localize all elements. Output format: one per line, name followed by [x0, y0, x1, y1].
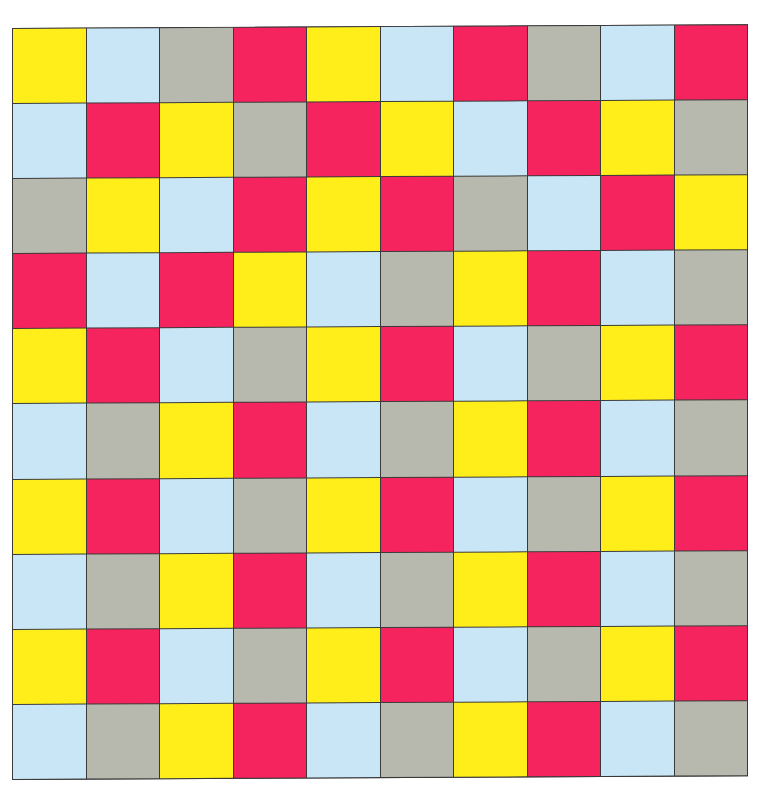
grid-cell-light-blue — [13, 404, 86, 478]
grid-cell-yellow — [307, 478, 380, 552]
grid-cell-yellow — [13, 629, 86, 703]
grid-cell-yellow — [454, 252, 527, 326]
grid-cell-red — [234, 403, 307, 477]
grid-cell-light-blue — [381, 27, 454, 101]
grid-cell-light-blue — [13, 104, 86, 178]
grid-cell-yellow — [601, 476, 674, 550]
grid-cell-light-blue — [160, 478, 233, 552]
grid-cell-yellow — [13, 29, 86, 103]
grid-cell-light-blue — [601, 551, 674, 625]
grid-cell-gray — [675, 401, 748, 475]
grid-cell-red — [528, 251, 601, 325]
grid-cell-red — [528, 101, 601, 175]
grid-cell-light-blue — [601, 26, 674, 100]
grid-cell-light-blue — [307, 553, 380, 627]
grid-cell-yellow — [675, 175, 748, 249]
grid-cell-light-blue — [13, 705, 86, 779]
grid-cell-red — [234, 27, 307, 101]
grid-cell-gray — [675, 100, 748, 174]
grid-cell-red — [87, 629, 160, 703]
grid-cell-gray — [381, 703, 454, 777]
grid-cell-gray — [381, 252, 454, 326]
grid-cell-light-blue — [160, 178, 233, 252]
grid-cell-yellow — [601, 626, 674, 700]
grid-cell-red — [675, 476, 748, 550]
grid-cell-red — [234, 178, 307, 252]
grid-cell-yellow — [454, 402, 527, 476]
grid-cell-yellow — [307, 27, 380, 101]
grid-cell-gray — [87, 554, 160, 628]
grid-cell-red — [381, 327, 454, 401]
grid-cell-red — [528, 401, 601, 475]
grid-cell-yellow — [307, 177, 380, 251]
grid-cell-red — [87, 329, 160, 403]
grid-cell-red — [675, 626, 748, 700]
grid-cell-light-blue — [454, 101, 527, 175]
canvas — [0, 0, 761, 790]
grid-cell-yellow — [87, 178, 160, 252]
grid-cell-yellow — [160, 554, 233, 628]
grid-cell-light-blue — [160, 629, 233, 703]
grid-cell-gray — [13, 179, 86, 253]
grid-cell-light-blue — [307, 703, 380, 777]
grid-cell-gray — [87, 404, 160, 478]
grid-cell-red — [160, 253, 233, 327]
grid-cell-light-blue — [87, 254, 160, 328]
grid-cell-yellow — [454, 552, 527, 626]
grid-cell-gray — [381, 402, 454, 476]
grid-cell-gray — [528, 26, 601, 100]
grid-cell-red — [528, 552, 601, 626]
grid-cell-yellow — [234, 253, 307, 327]
grid-cell-yellow — [601, 326, 674, 400]
grid-cell-yellow — [307, 628, 380, 702]
grid-cell-gray — [234, 103, 307, 177]
grid-cell-light-blue — [13, 554, 86, 628]
grid-cell-yellow — [13, 479, 86, 553]
grid-cell-yellow — [160, 704, 233, 778]
grid-cell-red — [381, 627, 454, 701]
grid-cell-yellow — [307, 327, 380, 401]
grid-cell-gray — [675, 701, 748, 775]
grid-cell-yellow — [160, 103, 233, 177]
color-grid — [12, 24, 748, 780]
grid-cell-yellow — [160, 403, 233, 477]
grid-cell-gray — [160, 28, 233, 102]
grid-cell-gray — [528, 326, 601, 400]
grid-cell-gray — [675, 250, 748, 324]
grid-cell-light-blue — [454, 627, 527, 701]
grid-cell-red — [381, 177, 454, 251]
grid-cell-gray — [381, 552, 454, 626]
grid-cell-gray — [528, 627, 601, 701]
grid-cell-light-blue — [601, 251, 674, 325]
grid-cell-yellow — [381, 102, 454, 176]
grid-cell-light-blue — [528, 176, 601, 250]
grid-cell-red — [601, 176, 674, 250]
grid-cell-gray — [234, 478, 307, 552]
grid-cell-light-blue — [601, 401, 674, 475]
grid-cell-light-blue — [307, 403, 380, 477]
grid-cell-yellow — [13, 329, 86, 403]
grid-cell-red — [87, 479, 160, 553]
grid-cell-red — [13, 254, 86, 328]
grid-cell-red — [381, 477, 454, 551]
grid-cell-gray — [528, 477, 601, 551]
grid-cell-yellow — [601, 101, 674, 175]
grid-cell-red — [234, 703, 307, 777]
grid-cell-light-blue — [454, 327, 527, 401]
grid-cell-red — [87, 103, 160, 177]
grid-cell-light-blue — [87, 28, 160, 102]
grid-cell-red — [234, 553, 307, 627]
grid-cell-light-blue — [601, 701, 674, 775]
grid-cell-light-blue — [454, 477, 527, 551]
grid-cell-light-blue — [160, 328, 233, 402]
grid-cell-red — [675, 326, 748, 400]
grid-cell-gray — [454, 176, 527, 250]
grid-cell-red — [454, 26, 527, 100]
grid-cell-red — [675, 25, 748, 99]
grid-cell-gray — [87, 704, 160, 778]
grid-cell-red — [307, 102, 380, 176]
grid-cell-light-blue — [307, 252, 380, 326]
grid-cell-red — [528, 702, 601, 776]
grid-cell-yellow — [454, 702, 527, 776]
grid-cell-gray — [234, 628, 307, 702]
